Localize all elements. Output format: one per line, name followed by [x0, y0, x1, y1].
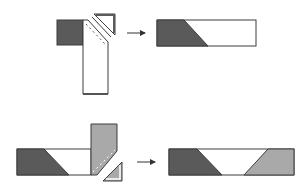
step2-before: [17, 124, 122, 181]
dark-square: [57, 20, 83, 45]
diagram-canvas: [0, 0, 308, 191]
light-vertical-strip: [83, 20, 108, 94]
step1-before: [57, 14, 115, 94]
step2-after: [169, 149, 294, 175]
step1-after: [157, 20, 256, 46]
medium-vertical-strip: [91, 124, 117, 175]
